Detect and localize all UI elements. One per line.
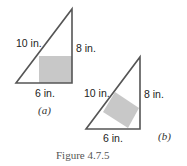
sublabel-b: (b) — [158, 131, 171, 142]
base-label-b: 6 in. — [103, 133, 123, 144]
base-label-a: 6 in. — [35, 88, 55, 99]
figure-caption: Figure 4.7.5 — [56, 150, 109, 161]
height-label-a: 8 in. — [76, 43, 96, 54]
sublabel-a: (a) — [38, 105, 51, 116]
hypotenuse-label-a: 10 in. — [16, 38, 42, 49]
square-a — [39, 56, 72, 83]
figure-4-7-5: 10 in. 8 in. 6 in. (a) 10 in. 8 in. 6 in… — [0, 0, 187, 166]
height-label-b: 8 in. — [144, 89, 164, 100]
hypotenuse-label-b: 10 in. — [84, 88, 110, 99]
